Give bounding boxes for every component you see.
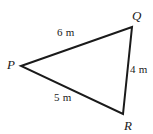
vertex-label-r: R xyxy=(124,119,132,132)
triangle-figure: P Q R 6 m 4 m 5 m xyxy=(0,0,153,134)
side-length-label-pr: 5 m xyxy=(54,92,72,103)
side-length-label-qr: 4 m xyxy=(130,64,148,75)
triangle-outline xyxy=(21,27,132,114)
vertex-label-p: P xyxy=(7,58,15,71)
side-length-label-pq: 6 m xyxy=(57,27,75,38)
vertex-label-q: Q xyxy=(132,9,141,22)
